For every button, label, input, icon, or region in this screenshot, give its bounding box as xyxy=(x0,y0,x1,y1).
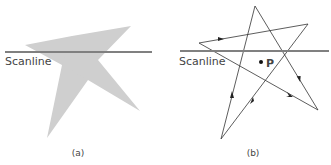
star-edges xyxy=(199,6,318,139)
point-label-p: P xyxy=(266,57,274,70)
scanline-figure: Scanline (a) Scanline P (b) xyxy=(0,0,331,165)
panel-b xyxy=(180,6,329,139)
caption-b: (b) xyxy=(247,148,260,158)
scanline-label-b: Scanline xyxy=(179,55,226,68)
point-p-dot xyxy=(259,60,263,64)
panel-a: Scanline (a) xyxy=(5,8,152,158)
scanline-label-a: Scanline xyxy=(5,55,52,68)
caption-a: (a) xyxy=(72,148,85,158)
arrow-icon xyxy=(218,37,224,41)
